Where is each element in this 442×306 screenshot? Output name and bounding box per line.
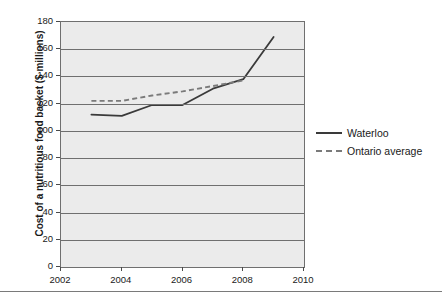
- x-tick-mark: [60, 267, 61, 271]
- series-lines: [61, 22, 304, 267]
- y-tick-label: 140: [13, 69, 53, 80]
- x-tick-mark: [242, 267, 243, 271]
- x-tick-label: 2010: [281, 274, 325, 285]
- x-tick-mark: [303, 267, 304, 271]
- y-tick-label: 80: [13, 151, 53, 162]
- legend-line-solid-icon: [316, 128, 342, 138]
- gridline: [61, 185, 304, 186]
- x-tick-label: 2004: [99, 274, 143, 285]
- gridline: [61, 131, 304, 132]
- x-tick-mark: [182, 267, 183, 271]
- y-tick-label: 20: [13, 233, 53, 244]
- y-tick-label: 160: [13, 42, 53, 53]
- x-tick-label: 2008: [220, 274, 264, 285]
- legend-item-waterloo: Waterloo: [316, 124, 422, 142]
- y-tick-label: 100: [13, 124, 53, 135]
- legend-label-waterloo: Waterloo: [347, 127, 389, 139]
- gridline: [61, 49, 304, 50]
- footer-divider: [0, 291, 442, 292]
- y-tick-label: 180: [13, 15, 53, 26]
- y-tick-label: 120: [13, 97, 53, 108]
- x-tick-label: 2002: [38, 274, 82, 285]
- gridline: [61, 158, 304, 159]
- chart-figure: Cost of a nutritious food basket ($ mill…: [0, 0, 442, 306]
- gridline: [61, 76, 304, 77]
- gridline: [61, 104, 304, 105]
- line-ontario-average: [91, 81, 243, 101]
- gridline: [61, 240, 304, 241]
- legend-label-ontario-average: Ontario average: [347, 145, 422, 157]
- gridline: [61, 213, 304, 214]
- x-tick-label: 2006: [160, 274, 204, 285]
- y-tick-label: 60: [13, 178, 53, 189]
- x-tick-mark: [121, 267, 122, 271]
- plot-area: [60, 21, 305, 268]
- y-tick-label: 0: [13, 260, 53, 271]
- y-tick-label: 40: [13, 206, 53, 217]
- legend-item-ontario-average: Ontario average: [316, 142, 422, 160]
- chart-legend: Waterloo Ontario average: [316, 124, 422, 160]
- legend-line-dashed-icon: [316, 146, 342, 156]
